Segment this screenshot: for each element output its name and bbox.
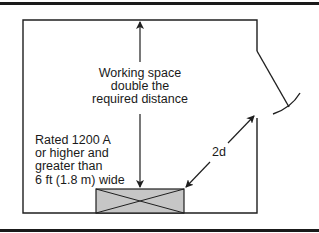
distance-arrow-lower [186,162,210,187]
bottom-rule [0,229,319,232]
top-rule [0,2,319,5]
door-leaf [257,51,289,107]
door-swing [257,51,300,114]
working-space-label: Working space double the required distan… [92,67,188,106]
distance-arrow-upper [228,116,254,143]
equipment-rating-label: Rated 1200 A or higher and greater than … [35,134,125,187]
working-space-line-3: required distance [92,93,188,106]
equipment-label-line-3: greater than [35,160,125,173]
distance-label: 2d [212,146,226,159]
equipment-label-line-4: 6 ft (1.8 m) wide [35,174,125,187]
clearance-diagram [0,0,319,233]
switchgear-equipment [96,189,184,213]
